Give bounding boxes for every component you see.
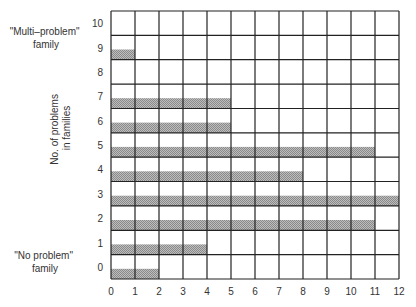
- bar-2: [111, 220, 375, 230]
- bar-9: [111, 50, 135, 60]
- y-tick-label: 3: [97, 189, 103, 200]
- bar-5: [111, 147, 375, 157]
- x-tick-label: 6: [252, 286, 258, 297]
- no-problem-annotation: "No problem" family: [14, 250, 76, 274]
- x-tick-label: 12: [393, 286, 405, 297]
- y-tick-label: 2: [97, 213, 103, 224]
- x-tick-label: 10: [345, 286, 357, 297]
- x-tick-label: 8: [300, 286, 306, 297]
- x-tick-label: 9: [324, 286, 330, 297]
- y-tick-label: 1: [97, 238, 103, 249]
- x-tick-label: 7: [276, 286, 282, 297]
- x-tick-labels: 0123456789101112: [108, 286, 405, 297]
- y-tick-label: 10: [92, 18, 104, 29]
- y-tick-label: 0: [97, 262, 103, 273]
- y-tick-label: 4: [97, 164, 103, 175]
- multi-problem-annotation: "Multi–problem" family: [10, 26, 83, 50]
- bar-6: [111, 123, 231, 133]
- y-tick-label: 8: [97, 67, 103, 78]
- y-tick-labels: 012345678910: [92, 18, 104, 273]
- x-tick-label: 2: [156, 286, 162, 297]
- y-tick-label: 7: [97, 91, 103, 102]
- y-tick-label: 9: [97, 43, 103, 54]
- x-tick-label: 5: [228, 286, 234, 297]
- y-tick-label: 5: [97, 140, 103, 151]
- x-tick-label: 11: [370, 286, 381, 297]
- grid: [111, 11, 399, 279]
- bar-7: [111, 98, 231, 108]
- y-axis-label: No. of problems in families: [49, 91, 72, 164]
- horizontal-bar-chart: 012345678910 0123456789101112 No. of pro…: [0, 0, 416, 307]
- x-tick-label: 0: [108, 286, 114, 297]
- x-tick-label: 3: [180, 286, 186, 297]
- x-tick-label: 1: [132, 286, 138, 297]
- x-tick-label: 4: [204, 286, 210, 297]
- y-tick-label: 6: [97, 116, 103, 127]
